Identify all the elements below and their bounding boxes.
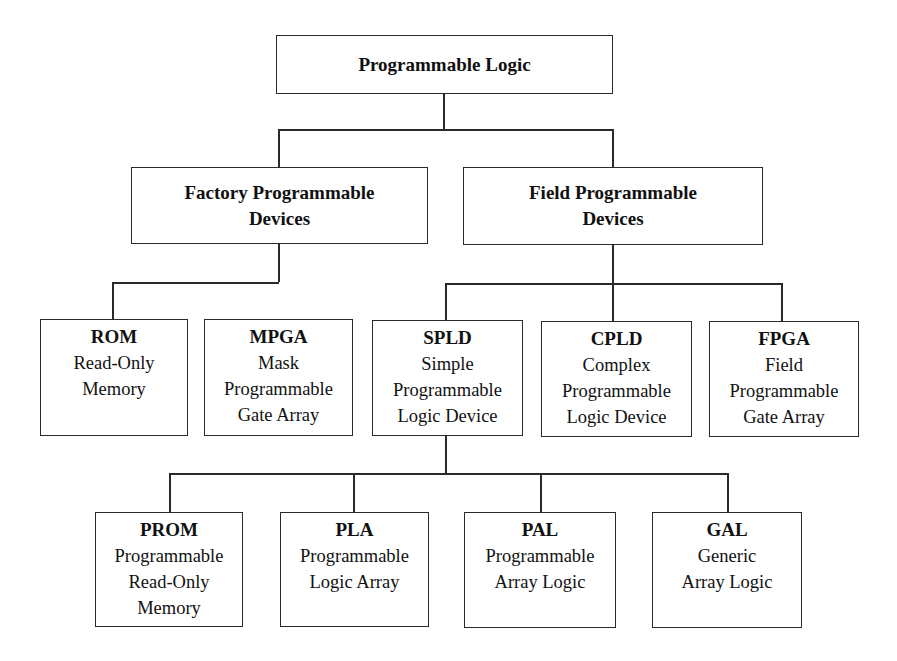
node-abbr: SPLD [423,325,472,351]
connector-to-field [612,129,614,168]
connector-to-rom [112,282,114,320]
node-abbr: PROM [140,517,198,543]
connector-spld-bar [169,473,728,475]
node-abbr: ROM [91,324,137,350]
node-desc: Field [765,352,803,378]
node-desc: Read-Only [73,350,154,376]
node-programmable-logic: Programmable Logic [276,35,613,94]
connector-spld-down [445,435,447,473]
node-desc: Logic Device [566,404,666,430]
node-label-line2: Devices [249,206,310,232]
connector-to-pla [353,473,355,512]
node-abbr: PLA [336,517,374,543]
connector-factory-down [278,243,280,282]
node-pla: PLA Programmable Logic Array [280,512,429,627]
connector-level2-bar [278,129,614,131]
node-desc: Mask [258,350,299,376]
connector-field-bar [445,283,782,285]
node-gal: GAL Generic Array Logic [652,512,802,628]
node-desc: Programmable [562,378,671,404]
node-label-line1: Factory Programmable [184,180,374,206]
node-desc: Programmable [300,543,409,569]
node-rom: ROM Read-Only Memory [40,319,188,436]
node-desc: Simple [421,351,473,377]
node-abbr: PAL [522,517,559,543]
node-spld: SPLD Simple Programmable Logic Device [372,320,523,436]
node-abbr: FPGA [758,326,810,352]
connector-to-prom [169,473,171,512]
connector-to-gal [727,473,729,513]
node-desc: Gate Array [743,404,825,430]
node-field-programmable-devices: Field Programmable Devices [463,167,763,245]
node-desc: Programmable [486,543,595,569]
node-abbr: MPGA [249,324,307,350]
node-fpga: FPGA Field Programmable Gate Array [709,321,859,437]
node-label-line2: Devices [582,206,643,232]
node-desc: Array Logic [495,569,586,595]
connector-to-factory [278,129,280,168]
node-desc: Gate Array [238,402,320,428]
node-label: Programmable Logic [358,52,530,78]
node-desc: Programmable [393,377,502,403]
node-desc: Complex [583,352,651,378]
connector-root-down [443,93,445,129]
node-factory-programmable-devices: Factory Programmable Devices [131,167,428,244]
node-desc: Memory [82,376,146,402]
node-abbr: GAL [706,517,747,543]
node-desc: Programmable [730,378,839,404]
node-mpga: MPGA Mask Programmable Gate Array [204,319,353,436]
connector-factory-bar [112,282,279,284]
node-desc: Logic Device [397,403,497,429]
node-desc: Logic Array [310,569,400,595]
node-label-line1: Field Programmable [529,180,697,206]
node-desc: Array Logic [682,569,773,595]
node-cpld: CPLD Complex Programmable Logic Device [541,321,692,437]
node-prom: PROM Programmable Read-Only Memory [95,512,243,627]
node-desc: Read-Only [128,569,209,595]
connector-to-spld [445,283,447,321]
node-desc: Programmable [224,376,333,402]
node-abbr: CPLD [591,326,643,352]
node-pal: PAL Programmable Array Logic [464,512,616,628]
node-desc: Memory [137,595,201,621]
connector-to-pal [540,473,542,513]
connector-to-fpga [781,283,783,321]
node-desc: Generic [698,543,757,569]
node-desc: Programmable [115,543,224,569]
